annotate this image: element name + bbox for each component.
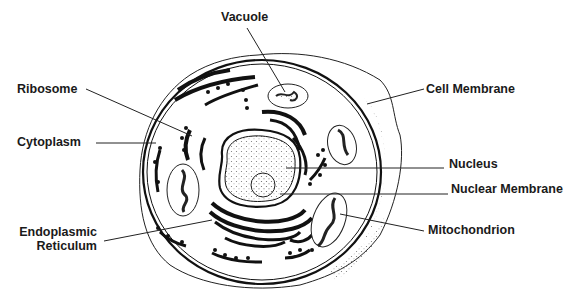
label-mitochondrion: Mitochondrion bbox=[428, 223, 515, 237]
label-ribosome: Ribosome bbox=[17, 82, 77, 96]
leader-er bbox=[104, 220, 212, 241]
endoplasmic-reticulum-stacks bbox=[210, 203, 312, 246]
membrane-stipple bbox=[335, 92, 386, 275]
label-nucleus: Nucleus bbox=[449, 157, 498, 171]
label-er-line2: Reticulum bbox=[12, 239, 97, 253]
label-cytoplasm: Cytoplasm bbox=[17, 135, 81, 149]
cell-diagram bbox=[0, 0, 580, 299]
label-vacuole: Vacuole bbox=[221, 10, 268, 24]
leader-mitochondrion bbox=[340, 214, 424, 231]
nucleolus bbox=[251, 173, 275, 197]
label-nuclear-membrane: Nuclear Membrane bbox=[451, 182, 563, 196]
label-cell-membrane: Cell Membrane bbox=[426, 82, 515, 96]
leader-ribosome bbox=[86, 89, 192, 136]
label-er-line1: Endoplasmic bbox=[12, 225, 97, 239]
leader-cell-membrane bbox=[367, 89, 424, 104]
label-endoplasmic-reticulum: Endoplasmic Reticulum bbox=[12, 225, 97, 253]
